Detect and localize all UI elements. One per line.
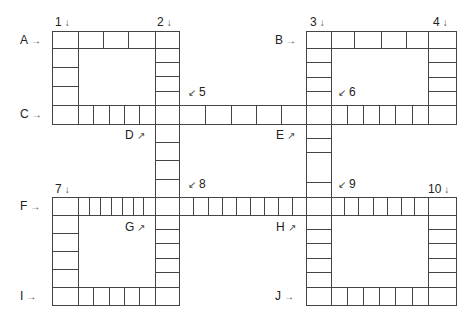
- cell-row-j[interactable]: [306, 287, 332, 306]
- cell-row-f[interactable]: [344, 197, 359, 216]
- cell-row-c[interactable]: [93, 105, 110, 125]
- cell-col-7[interactable]: [52, 269, 79, 288]
- cell-row-c[interactable]: [331, 105, 348, 125]
- cell-row-b[interactable]: [354, 31, 382, 49]
- cell-row-f[interactable]: [236, 197, 251, 216]
- cell-col-1[interactable]: [52, 48, 79, 68]
- cell-col-g[interactable]: [155, 243, 180, 259]
- cell-col-d[interactable]: [155, 179, 180, 198]
- cell-row-i[interactable]: [93, 287, 110, 306]
- cell-col-e[interactable]: [306, 138, 332, 153]
- cell-row-c[interactable]: [395, 105, 413, 125]
- cell-row-f[interactable]: [387, 197, 402, 216]
- cell-row-c[interactable]: [412, 105, 429, 125]
- cell-row-i[interactable]: [109, 287, 125, 306]
- cell-row-c[interactable]: [179, 105, 206, 125]
- cell-row-f[interactable]: [179, 197, 194, 216]
- cell-row-f[interactable]: [278, 197, 293, 216]
- cell-row-f[interactable]: [428, 197, 457, 216]
- cell-row-c[interactable]: [205, 105, 232, 125]
- cell-row-c[interactable]: [78, 105, 94, 125]
- cell-row-f[interactable]: [358, 197, 374, 216]
- cell-row-c[interactable]: [256, 105, 282, 125]
- cell-col-3[interactable]: [306, 62, 332, 78]
- cell-row-f[interactable]: [401, 197, 415, 216]
- cell-row-a[interactable]: [52, 31, 79, 49]
- cell-row-f[interactable]: [52, 197, 79, 216]
- cell-col-1[interactable]: [52, 86, 79, 106]
- cell-col-e[interactable]: [306, 182, 332, 198]
- cell-col-3[interactable]: [306, 91, 332, 106]
- cell-row-b[interactable]: [381, 31, 407, 49]
- cell-col-h[interactable]: [306, 215, 332, 230]
- cell-col-4[interactable]: [428, 48, 457, 63]
- cell-row-f[interactable]: [264, 197, 279, 216]
- cell-row-c[interactable]: [363, 105, 380, 125]
- cell-row-j[interactable]: [363, 287, 380, 306]
- cell-col-2[interactable]: [155, 62, 180, 77]
- cell-row-c[interactable]: [379, 105, 396, 125]
- cell-col-2[interactable]: [155, 48, 180, 63]
- cell-col-h[interactable]: [306, 272, 332, 288]
- cell-col-10[interactable]: [428, 243, 457, 259]
- cell-col-4[interactable]: [428, 77, 457, 92]
- cell-col-2[interactable]: [155, 76, 180, 92]
- cell-row-f[interactable]: [208, 197, 223, 216]
- cell-row-f[interactable]: [414, 197, 429, 216]
- cell-row-j[interactable]: [428, 287, 457, 306]
- cell-row-a[interactable]: [155, 31, 180, 49]
- cell-row-f[interactable]: [292, 197, 307, 216]
- cell-col-7[interactable]: [52, 233, 79, 252]
- cell-row-i[interactable]: [78, 287, 94, 306]
- cell-row-f[interactable]: [331, 197, 345, 216]
- cell-col-e[interactable]: [306, 124, 332, 139]
- cell-row-i[interactable]: [52, 287, 79, 306]
- cell-row-c[interactable]: [109, 105, 125, 125]
- cell-row-b[interactable]: [406, 31, 429, 49]
- cell-row-j[interactable]: [379, 287, 396, 306]
- cell-col-g[interactable]: [155, 258, 180, 273]
- cell-col-g[interactable]: [155, 215, 180, 230]
- cell-row-f[interactable]: [155, 197, 180, 216]
- cell-row-f[interactable]: [250, 197, 265, 216]
- cell-col-4[interactable]: [428, 62, 457, 78]
- cell-row-c[interactable]: [347, 105, 364, 125]
- cell-row-b[interactable]: [306, 31, 332, 49]
- cell-col-10[interactable]: [428, 229, 457, 244]
- cell-row-f[interactable]: [222, 197, 237, 216]
- cell-row-a[interactable]: [78, 31, 104, 49]
- cell-col-10[interactable]: [428, 258, 457, 273]
- cell-col-e[interactable]: [306, 152, 332, 183]
- cell-row-i[interactable]: [139, 287, 156, 306]
- cell-col-7[interactable]: [52, 251, 79, 270]
- cell-row-c[interactable]: [52, 105, 79, 125]
- cell-col-g[interactable]: [155, 229, 180, 244]
- cell-row-j[interactable]: [331, 287, 348, 306]
- cell-row-j[interactable]: [395, 287, 413, 306]
- cell-row-f[interactable]: [373, 197, 388, 216]
- cell-col-3[interactable]: [306, 48, 332, 63]
- cell-col-3[interactable]: [306, 77, 332, 92]
- cell-col-g[interactable]: [155, 272, 180, 288]
- cell-col-10[interactable]: [428, 215, 457, 230]
- cell-row-j[interactable]: [347, 287, 364, 306]
- cell-col-1[interactable]: [52, 67, 79, 87]
- cell-col-4[interactable]: [428, 91, 457, 106]
- cell-col-d[interactable]: [155, 124, 180, 143]
- cell-row-c[interactable]: [155, 105, 180, 125]
- cell-row-c[interactable]: [124, 105, 140, 125]
- cell-row-b[interactable]: [331, 31, 355, 49]
- cell-row-c[interactable]: [281, 105, 307, 125]
- cell-row-f[interactable]: [306, 197, 332, 216]
- cell-col-d[interactable]: [155, 142, 180, 161]
- cell-row-i[interactable]: [124, 287, 140, 306]
- cell-row-c[interactable]: [231, 105, 257, 125]
- cell-col-h[interactable]: [306, 243, 332, 259]
- cell-row-j[interactable]: [412, 287, 429, 306]
- cell-col-7[interactable]: [52, 215, 79, 234]
- cell-col-10[interactable]: [428, 272, 457, 288]
- cell-col-h[interactable]: [306, 229, 332, 244]
- cell-row-f[interactable]: [193, 197, 209, 216]
- cell-row-c[interactable]: [139, 105, 156, 125]
- cell-row-c[interactable]: [306, 105, 332, 125]
